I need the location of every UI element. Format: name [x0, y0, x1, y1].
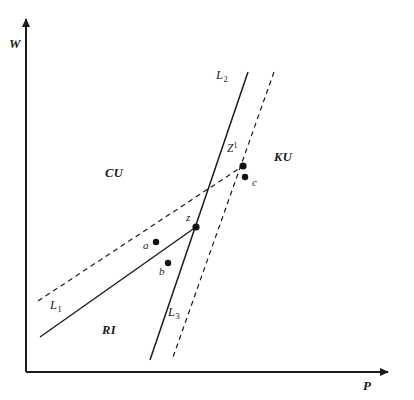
- line-label-L3: L3: [168, 306, 179, 319]
- line-label-L2: L2: [216, 69, 227, 82]
- point-a-dot: [153, 239, 159, 245]
- point-label-c: c: [252, 177, 257, 188]
- line-label-L2-sub: 2: [223, 74, 227, 84]
- point-label-z: z: [186, 212, 190, 223]
- point-label-Z1: Z1: [227, 143, 237, 155]
- point-c-dot: [242, 174, 248, 180]
- diagram-svg: [0, 0, 414, 400]
- region-label-ri: RI: [102, 324, 116, 337]
- line-label-L1: L1: [50, 299, 61, 312]
- point-b-dot: [165, 260, 171, 266]
- line-label-L3-sub: 3: [175, 311, 179, 321]
- line-label-L1-text: L: [50, 298, 57, 312]
- point-label-a: a: [143, 240, 149, 251]
- lines-group: [38, 72, 274, 360]
- line-label-L1-sub: 1: [57, 304, 61, 314]
- points-group: [153, 162, 248, 266]
- axis-group: [26, 19, 388, 372]
- line-L1-dashed: [38, 164, 246, 301]
- x-axis-label: P: [363, 379, 371, 392]
- y-axis-label: W: [9, 37, 21, 50]
- line-label-L2-text: L: [216, 68, 223, 82]
- line-label-L3-text: L: [168, 305, 175, 319]
- region-label-cu: CU: [105, 167, 123, 180]
- point-Z1-dot: [239, 162, 246, 169]
- point-z-dot: [192, 223, 199, 230]
- line-L2-solid: [150, 72, 248, 360]
- figure-canvas: W P L1 L2 L3 CU KU RI a b c z Z1: [0, 0, 414, 400]
- line-L1-solid: [40, 227, 196, 337]
- point-label-b: b: [159, 266, 165, 277]
- region-label-ku: KU: [274, 151, 292, 164]
- point-label-Z1-sup: 1: [233, 141, 237, 150]
